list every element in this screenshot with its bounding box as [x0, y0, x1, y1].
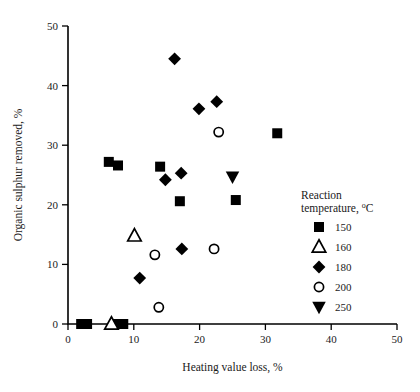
x-axis-title: Heating value loss, %: [182, 361, 283, 374]
series-250: [226, 172, 240, 184]
point-200-13.2-11.6[interactable]: [150, 250, 159, 259]
y-tick-label: 10: [47, 258, 59, 270]
point-150-17-20.6[interactable]: [175, 196, 185, 206]
scatter-plot: 0102030405001020304050 Reactiontemperatu…: [0, 0, 420, 392]
axes-group: 0102030405001020304050: [47, 20, 403, 345]
point-200-22.9-32.2[interactable]: [214, 127, 223, 136]
point-180-22.6-37.3[interactable]: [210, 95, 223, 108]
point-180-16.2-44.5[interactable]: [168, 52, 181, 65]
x-tick-label: 30: [260, 333, 272, 345]
series-150: [76, 128, 282, 329]
legend-label-160: 160: [335, 241, 352, 253]
y-tick-label: 0: [53, 318, 59, 330]
legend-label-180: 180: [335, 261, 352, 273]
point-150-25.5-20.8[interactable]: [231, 195, 241, 205]
point-150-8.4-0[interactable]: [118, 319, 128, 329]
point-250-25-24.7[interactable]: [226, 172, 240, 184]
legend-item-250[interactable]: 250: [312, 301, 352, 314]
legend-marker-150[interactable]: [314, 222, 324, 232]
legend-title-line2: temperature, oC: [301, 201, 374, 216]
x-tick-label: 10: [128, 333, 140, 345]
legend: Reactiontemperature, oC150160180200250: [301, 189, 374, 314]
y-tick-label: 50: [47, 20, 59, 32]
legend-item-200[interactable]: 200: [314, 281, 352, 293]
x-tick-label: 50: [392, 333, 404, 345]
x-tick-label: 40: [326, 333, 338, 345]
legend-marker-200[interactable]: [314, 282, 323, 291]
legend-marker-180[interactable]: [313, 261, 326, 274]
legend-title-line1: Reaction: [301, 189, 342, 201]
y-axis-title: Organic sulphur removed, %: [12, 108, 25, 241]
legend-label-150: 150: [335, 221, 352, 233]
point-150-14-26.4[interactable]: [155, 162, 165, 172]
data-points-group[interactable]: [76, 52, 282, 329]
y-tick-label: 20: [47, 199, 59, 211]
point-180-10.9-7.7[interactable]: [133, 272, 146, 285]
point-180-17.2-25.3[interactable]: [175, 167, 188, 180]
point-150-2.9-0[interactable]: [82, 319, 92, 329]
figure-container: 0102030405001020304050 Reactiontemperatu…: [0, 0, 420, 392]
legend-item-150[interactable]: 150: [314, 221, 352, 233]
legend-label-200: 200: [335, 281, 352, 293]
y-tick-label: 40: [47, 80, 59, 92]
point-150-31.8-32[interactable]: [272, 128, 282, 138]
point-150-7.6-26.6[interactable]: [113, 160, 123, 170]
legend-marker-160[interactable]: [312, 240, 326, 252]
legend-label-250: 250: [335, 301, 352, 313]
point-200-22.2-12.6[interactable]: [209, 244, 218, 253]
legend-item-180[interactable]: 180: [313, 261, 352, 274]
point-150-6.2-27.2[interactable]: [104, 157, 114, 167]
point-180-14.8-24.2[interactable]: [159, 173, 172, 186]
legend-marker-250[interactable]: [312, 302, 326, 314]
y-tick-label: 30: [47, 139, 59, 151]
legend-item-160[interactable]: 160: [312, 240, 352, 253]
x-tick-label: 20: [194, 333, 206, 345]
x-tick-label: 0: [65, 333, 71, 345]
point-180-17.3-12.6[interactable]: [175, 243, 188, 256]
series-200: [150, 127, 223, 311]
point-200-13.8-2.8[interactable]: [154, 303, 163, 312]
point-180-19.9-36.1[interactable]: [193, 102, 206, 115]
point-160-10.1-14.8[interactable]: [128, 229, 141, 241]
